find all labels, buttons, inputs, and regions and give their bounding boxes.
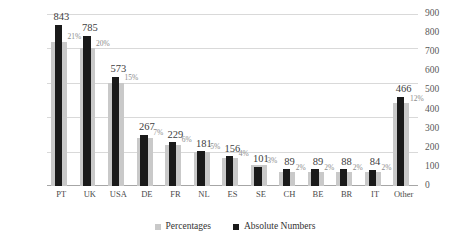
x-axis-tick-label: DE (133, 188, 162, 202)
bar-category[interactable]: 1815% (190, 14, 219, 186)
legend-label: Percentages (166, 222, 211, 232)
bar-category[interactable]: 46612% (389, 14, 418, 186)
data-label-percentage: 2% (296, 164, 306, 172)
legend-swatch-icon (233, 224, 239, 230)
data-label-absolute: 785 (82, 23, 98, 34)
bar-absolute-numbers[interactable] (311, 169, 318, 186)
bar-chart: 0%5%10%15%20%25% 01002003004005006007008… (0, 0, 470, 248)
x-axis-tick-label: SE (247, 188, 276, 202)
bar-absolute-numbers[interactable] (197, 151, 204, 186)
bar-absolute-numbers[interactable] (83, 36, 90, 186)
bar-absolute-numbers[interactable] (169, 142, 176, 186)
x-axis-tick-label: Other (389, 188, 418, 202)
x-axis-tick-label: BE (304, 188, 333, 202)
data-label-percentage: 5% (210, 143, 220, 151)
right-axis-tick-label: 100 (425, 162, 465, 172)
bar-category[interactable]: 2677% (133, 14, 162, 186)
x-axis-tick-label: IT (361, 188, 390, 202)
bar-category[interactable]: 882% (332, 14, 361, 186)
x-axis-tick-label: PT (47, 188, 76, 202)
right-axis-tick-label: 500 (425, 85, 465, 95)
legend-label: Absolute Numbers (244, 222, 316, 232)
x-axis-tick-label: USA (104, 188, 133, 202)
bar-absolute-numbers[interactable] (254, 167, 261, 186)
data-label-percentage: 15% (125, 74, 139, 82)
data-label-absolute: 89 (284, 157, 295, 168)
bar-absolute-numbers[interactable] (112, 77, 119, 187)
x-axis-tick-label: NL (190, 188, 219, 202)
data-label-percentage: 2% (353, 164, 363, 172)
bar-absolute-numbers[interactable] (369, 170, 376, 186)
data-label-percentage: 3% (267, 157, 277, 165)
bar-absolute-numbers[interactable] (226, 156, 233, 186)
bar-absolute-numbers[interactable] (283, 169, 290, 186)
data-label-percentage: 2% (324, 164, 334, 172)
right-axis-tick-label: 0 (425, 181, 465, 191)
chart-legend: PercentagesAbsolute Numbers (0, 222, 470, 232)
bar-category[interactable]: 2296% (161, 14, 190, 186)
right-axis-tick-label: 200 (425, 143, 465, 153)
data-label-absolute: 843 (53, 12, 69, 23)
data-label-percentage: 21% (68, 33, 82, 41)
bar-category[interactable]: 842% (361, 14, 390, 186)
bar-absolute-numbers[interactable] (55, 25, 62, 186)
data-label-absolute: 88 (341, 157, 352, 168)
data-label-absolute: 84 (370, 157, 381, 168)
right-axis-tick-label: 600 (425, 66, 465, 76)
data-label-percentage: 20% (96, 40, 110, 48)
legend-item[interactable]: Absolute Numbers (233, 222, 316, 232)
x-axis-tick-label: FR (161, 188, 190, 202)
right-axis-tick-label: 800 (425, 28, 465, 38)
data-label-percentage: 6% (182, 136, 192, 144)
x-axis-tick-label: UK (76, 188, 105, 202)
data-label-percentage: 12% (410, 95, 424, 103)
bar-group: 84321%78520%57315%2677%2296%1815%1564%10… (47, 14, 418, 186)
bar-category[interactable]: 1564% (218, 14, 247, 186)
x-axis-tick-label: BR (332, 188, 361, 202)
data-label-percentage: 2% (381, 164, 391, 172)
x-axis-tick-label: ES (218, 188, 247, 202)
bar-category[interactable]: 84321% (47, 14, 76, 186)
bar-absolute-numbers[interactable] (340, 169, 347, 186)
data-label-percentage: 4% (239, 150, 249, 158)
right-axis-tick-label: 900 (425, 9, 465, 19)
right-axis-tick-label: 700 (425, 47, 465, 57)
x-axis-tick-label: CH (275, 188, 304, 202)
legend-item[interactable]: Percentages (155, 222, 211, 232)
plot-area: 84321%78520%57315%2677%2296%1815%1564%10… (47, 14, 418, 186)
data-label-percentage: 7% (153, 129, 163, 137)
bar-absolute-numbers[interactable] (397, 97, 404, 186)
data-label-absolute: 89 (313, 157, 324, 168)
bar-category[interactable]: 892% (304, 14, 333, 186)
legend-swatch-icon (155, 224, 161, 230)
x-axis-labels: PTUKUSADEFRNLESSECHBEBRITOther (47, 188, 418, 202)
right-axis-tick-label: 300 (425, 124, 465, 134)
bar-absolute-numbers[interactable] (140, 135, 147, 186)
bar-category[interactable]: 892% (275, 14, 304, 186)
bar-category[interactable]: 1013% (247, 14, 276, 186)
right-axis-tick-label: 400 (425, 105, 465, 115)
data-label-absolute: 573 (110, 64, 126, 75)
